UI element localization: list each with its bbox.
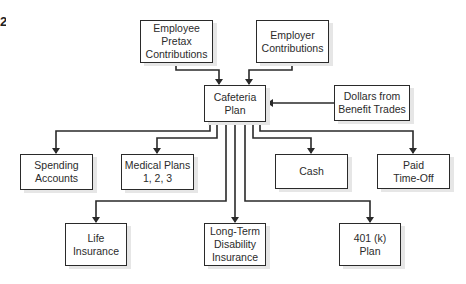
node-401k-plan: 401 (k) Plan (339, 223, 401, 266)
node-long-term-disability-insurance: Long-Term Disability Insurance (204, 223, 266, 266)
edge-cafeteria-to-cash (253, 122, 311, 153)
node-paid-time-off: Paid Time-Off (377, 154, 450, 189)
node-employer-contributions: Employer Contributions (256, 20, 329, 63)
node-employee-pretax-contributions: Employee Pretax Contributions (140, 20, 213, 63)
node-cash: Cash (275, 154, 348, 189)
node-life-insurance: Life Insurance (65, 223, 127, 266)
edge-employer-to-cafeteria (249, 63, 292, 84)
edge-employee-to-cafeteria (176, 63, 219, 84)
node-dollars-from-benefit-trades: Dollars from Benefit Trades (334, 85, 410, 121)
node-medical-plans: Medical Plans 1, 2, 3 (121, 154, 194, 190)
node-spending-accounts: Spending Accounts (20, 154, 93, 190)
edge-cafeteria-to-medical (157, 122, 217, 153)
node-cafeteria-plan: Cafeteria Plan (204, 85, 266, 122)
